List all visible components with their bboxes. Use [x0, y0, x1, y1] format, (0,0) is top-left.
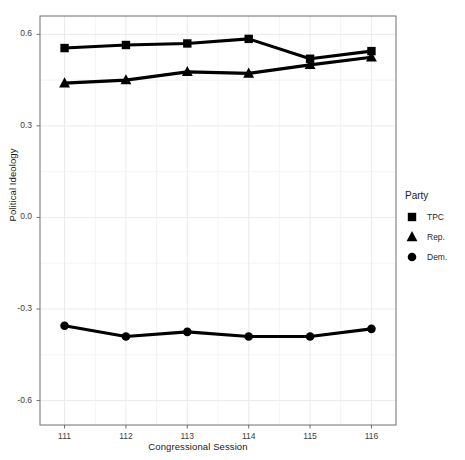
x-tick-label: 114 — [229, 431, 269, 441]
square-marker-icon — [183, 39, 191, 47]
triangle-marker-icon — [404, 229, 420, 245]
plot-panel — [37, 0, 397, 429]
circle-marker-icon — [60, 322, 69, 331]
x-axis-title: Congressional Session — [0, 441, 396, 452]
legend-title: Party — [404, 190, 464, 201]
legend-item-label: Rep. — [427, 232, 445, 242]
circle-marker-icon — [183, 328, 192, 337]
legend-item-rep[interactable]: Rep. — [404, 228, 464, 246]
circle-marker-icon — [122, 332, 131, 341]
circle-marker-icon — [244, 332, 253, 341]
y-tick-label: -0.6 — [4, 395, 32, 405]
circle-marker-icon — [367, 325, 376, 334]
circle-marker-icon — [408, 253, 417, 262]
y-axis-title-wrap: Political Ideology — [7, 85, 21, 285]
x-tick-label: 113 — [167, 431, 207, 441]
circle-marker-icon — [306, 332, 315, 341]
chart-figure: 0.60.30.0-0.3-0.6 111112113114115116 Pol… — [0, 0, 465, 460]
legend-item-tpc[interactable]: TPC — [404, 208, 464, 226]
square-marker-icon — [244, 35, 252, 43]
x-tick-label: 115 — [290, 431, 330, 441]
y-tick-label: 0.6 — [4, 28, 32, 38]
square-marker-icon — [404, 209, 420, 225]
legend-item-label: Dem. — [427, 252, 447, 262]
square-marker-icon — [408, 213, 416, 221]
triangle-marker-icon — [407, 231, 418, 241]
line-chart-plot — [0, 0, 465, 460]
square-marker-icon — [122, 41, 130, 49]
x-tick-label: 116 — [351, 431, 391, 441]
legend-item-dem[interactable]: Dem. — [404, 248, 464, 266]
legend-item-label: TPC — [427, 212, 444, 222]
x-tick-label: 112 — [106, 431, 146, 441]
y-axis-title: Political Ideology — [7, 85, 18, 285]
x-tick-label: 111 — [45, 431, 85, 441]
circle-marker-icon — [404, 249, 420, 265]
chart-legend: Party TPCRep.Dem. — [404, 190, 464, 268]
y-tick-label: -0.3 — [4, 303, 32, 313]
legend-items: TPCRep.Dem. — [404, 208, 464, 266]
square-marker-icon — [60, 44, 68, 52]
